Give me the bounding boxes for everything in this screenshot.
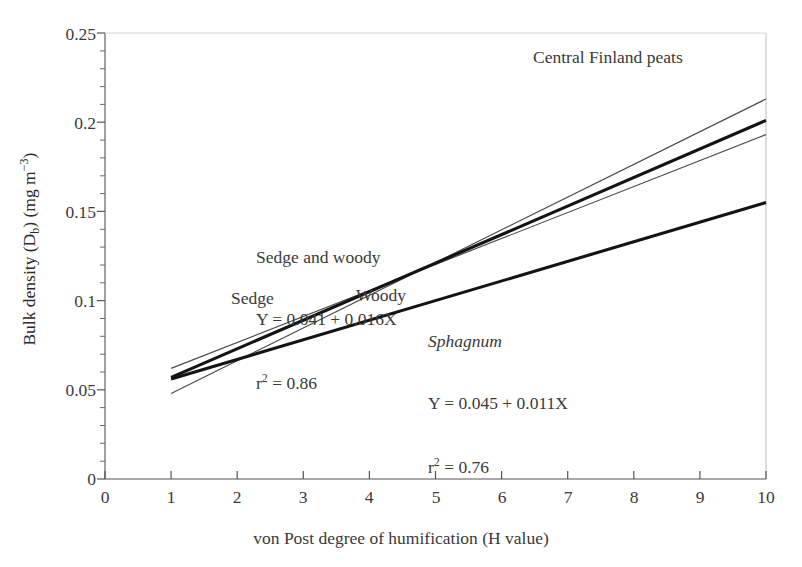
r2-value: = 0.86 xyxy=(268,373,317,393)
x-tick-label-0: 0 xyxy=(85,487,125,508)
y-axis-title-mid: ) (mg m xyxy=(19,171,39,227)
y-tick-label-0.05: 0.05 xyxy=(38,380,96,401)
line-label-sedge: Sedge xyxy=(231,288,274,309)
y-axis-title: Bulk density (Db) (mg m−3) xyxy=(17,29,43,469)
annotation-sedge-and-woody-equation: Y = 0.041 + 0.016X xyxy=(256,309,397,330)
annotation-sedge-and-woody: Sedge and woody Y = 0.041 + 0.016X r2 = … xyxy=(256,206,397,435)
annotation-sphagnum-name: Sphagnum xyxy=(428,331,568,352)
x-tick-label-1: 1 xyxy=(151,487,191,508)
y-axis-title-container: Bulk density (Db) (mg m−3) xyxy=(0,0,46,500)
y-major-ticks xyxy=(97,33,105,479)
x-tick-label-2: 2 xyxy=(217,487,257,508)
y-axis-title-prefix: Bulk density (D xyxy=(19,234,39,346)
y-tick-label-0.1: 0.1 xyxy=(38,291,96,312)
annotation-sedge-and-woody-name: Sedge and woody xyxy=(256,247,397,268)
r2-value: = 0.76 xyxy=(440,457,489,477)
y-tick-label-0.2: 0.2 xyxy=(38,113,96,134)
chart-canvas xyxy=(0,0,802,567)
x-tick-label-9: 9 xyxy=(680,487,720,508)
x-tick-label-4: 4 xyxy=(349,487,389,508)
annotation-sphagnum-equation: Y = 0.045 + 0.011X xyxy=(428,393,568,414)
chart-title: Central Finland peats xyxy=(533,47,683,68)
annotation-sedge-and-woody-r2: r2 = 0.86 xyxy=(256,371,397,393)
annotation-sphagnum: Sphagnum Y = 0.045 + 0.011X r2 = 0.76 xyxy=(428,290,568,519)
annotation-sphagnum-r2: r2 = 0.76 xyxy=(428,455,568,477)
x-tick-label-3: 3 xyxy=(283,487,323,508)
y-axis-title-superscript: −3 xyxy=(17,159,31,172)
y-axis-title-suffix: ) xyxy=(19,153,39,159)
y-axis-title-subscript: b xyxy=(28,228,42,234)
y-minor-ticks xyxy=(100,51,105,461)
y-tick-label-0.25: 0.25 xyxy=(38,24,96,45)
x-tick-label-10: 10 xyxy=(746,487,786,508)
x-tick-label-8: 8 xyxy=(614,487,654,508)
chart-figure: 0.25 0.2 0.15 0.1 0.05 0 0 1 2 3 4 5 6 7… xyxy=(0,0,802,567)
y-tick-label-0.15: 0.15 xyxy=(38,202,96,223)
x-axis-title: von Post degree of humification (H value… xyxy=(0,528,802,549)
line-label-woody: Woody xyxy=(356,285,406,306)
